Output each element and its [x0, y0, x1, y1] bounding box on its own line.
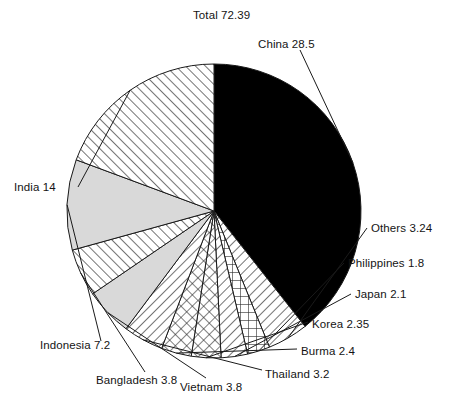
slice-label-philippines: Philippines 1.8 — [348, 257, 424, 270]
slice-label-japan: Japan 2.1 — [355, 288, 406, 301]
chart-title: Total 72.39 — [193, 9, 250, 21]
pie-slices-group — [67, 64, 361, 358]
slice-label-vietnam: Vietnam 3.8 — [180, 381, 242, 394]
pie-chart-figure: Total 72.39 China 28.5 Others 3.24 Phili… — [0, 0, 451, 401]
slice-label-burma: Burma 2.4 — [301, 345, 355, 358]
slice-label-thailand: Thailand 3.2 — [265, 368, 330, 381]
slice-label-china: China 28.5 — [258, 38, 315, 51]
slice-label-india: India 14 — [14, 181, 56, 194]
slice-label-others: Others 3.24 — [371, 222, 432, 235]
slice-label-bangladesh: Bangladesh 3.8 — [96, 374, 177, 387]
slice-label-korea: Korea 2.35 — [312, 318, 369, 331]
slice-label-indonesia: Indonesia 7.2 — [40, 339, 110, 352]
